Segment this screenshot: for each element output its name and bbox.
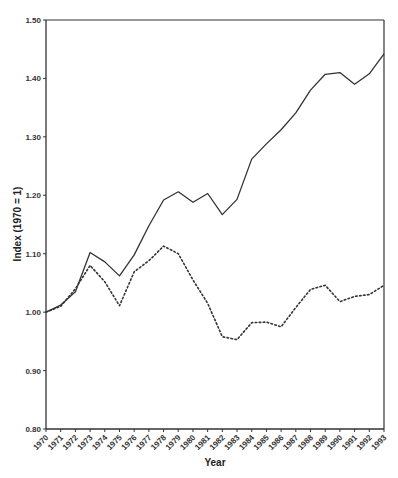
- x-tick-label: 1970: [31, 433, 50, 452]
- x-tick-label: 1990: [325, 433, 344, 452]
- x-tick-label: 1991: [340, 433, 359, 452]
- y-tick-label: 1.00: [25, 308, 41, 317]
- dotted-series-line: [46, 246, 384, 340]
- x-tick-label: 1988: [296, 433, 315, 452]
- y-axis-title: Index (1970 = 1): [12, 187, 23, 262]
- x-tick-label: 1971: [46, 433, 65, 452]
- x-tick-label: 1975: [105, 433, 124, 452]
- y-tick-label: 0.80: [25, 425, 41, 434]
- x-tick-label: 1980: [178, 433, 197, 452]
- y-tick-label: 1.10: [25, 250, 41, 259]
- x-tick-label: 1977: [134, 433, 153, 452]
- x-tick-label: 1982: [208, 433, 227, 452]
- y-tick-label: 0.90: [25, 367, 41, 376]
- plot-frame: [46, 20, 384, 429]
- x-tick-label: 1986: [267, 433, 286, 452]
- x-tick-label: 1972: [61, 433, 80, 452]
- y-tick-label: 1.20: [25, 191, 41, 200]
- x-tick-label: 1985: [252, 433, 271, 452]
- x-tick-label: 1973: [76, 433, 95, 452]
- x-tick-label: 1993: [369, 433, 388, 452]
- x-tick-label: 1983: [223, 433, 242, 452]
- x-tick-label: 1978: [149, 433, 168, 452]
- x-tick-label: 1974: [90, 433, 109, 452]
- line-chart: 0.800.901.001.101.201.301.401.50 1970197…: [0, 0, 398, 478]
- x-tick-label: 1992: [355, 433, 374, 452]
- x-tick-label: 1976: [120, 433, 139, 452]
- x-axis-title: Year: [204, 457, 225, 468]
- x-tick-label: 1979: [164, 433, 183, 452]
- x-tick-label: 1989: [311, 433, 330, 452]
- x-tick-label: 1984: [237, 433, 256, 452]
- y-axis-ticks: 0.800.901.001.101.201.301.401.50: [25, 16, 46, 434]
- y-tick-label: 1.40: [25, 74, 41, 83]
- x-tick-label: 1987: [281, 433, 300, 452]
- y-tick-label: 1.30: [25, 133, 41, 142]
- series-lines: [46, 54, 384, 340]
- x-axis-ticks: 1970197119721973197419751976197719781979…: [31, 429, 388, 452]
- x-tick-label: 1981: [193, 433, 212, 452]
- y-tick-label: 1.50: [25, 16, 41, 25]
